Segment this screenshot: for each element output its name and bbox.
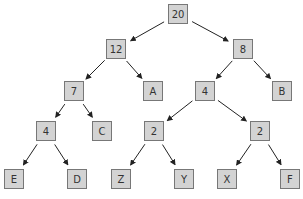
edge-arrow	[86, 60, 105, 79]
edge-arrow	[192, 22, 228, 41]
edge-arrow	[23, 144, 37, 165]
tree-node-d: D	[67, 169, 87, 189]
edge-arrow	[162, 145, 175, 165]
edge-arrow	[56, 104, 65, 117]
huffman-tree-diagram: 201287A4B4C22EDZYXF	[0, 0, 303, 199]
edge-arrow	[237, 144, 251, 165]
tree-node-y: Y	[174, 169, 194, 189]
tree-node-4: 4	[36, 121, 56, 141]
edge-arrow	[127, 61, 142, 78]
edge-arrow	[167, 101, 192, 121]
tree-node-12: 12	[106, 39, 126, 59]
tree-node-20: 20	[168, 4, 188, 24]
tree-node-f: F	[280, 169, 300, 189]
tree-node-b: B	[272, 81, 292, 101]
edge-arrow	[254, 61, 271, 79]
edge-arrow	[83, 104, 92, 117]
tree-node-8: 8	[233, 39, 253, 59]
edge-arrow	[268, 145, 281, 165]
tree-node-2: 2	[144, 121, 164, 141]
tree-node-z: Z	[111, 169, 131, 189]
tree-node-c: C	[92, 121, 112, 141]
tree-node-a: A	[143, 81, 163, 101]
edge-arrow	[216, 61, 232, 79]
edge-arrow	[55, 144, 68, 164]
tree-node-e: E	[4, 169, 24, 189]
tree-node-x: X	[217, 169, 237, 189]
tree-node-7: 7	[64, 81, 84, 101]
edge-arrow	[218, 100, 246, 121]
tree-node-2: 2	[250, 121, 270, 141]
edge-arrow	[131, 144, 145, 165]
tree-node-4: 4	[195, 81, 215, 101]
edge-arrow	[131, 22, 164, 41]
